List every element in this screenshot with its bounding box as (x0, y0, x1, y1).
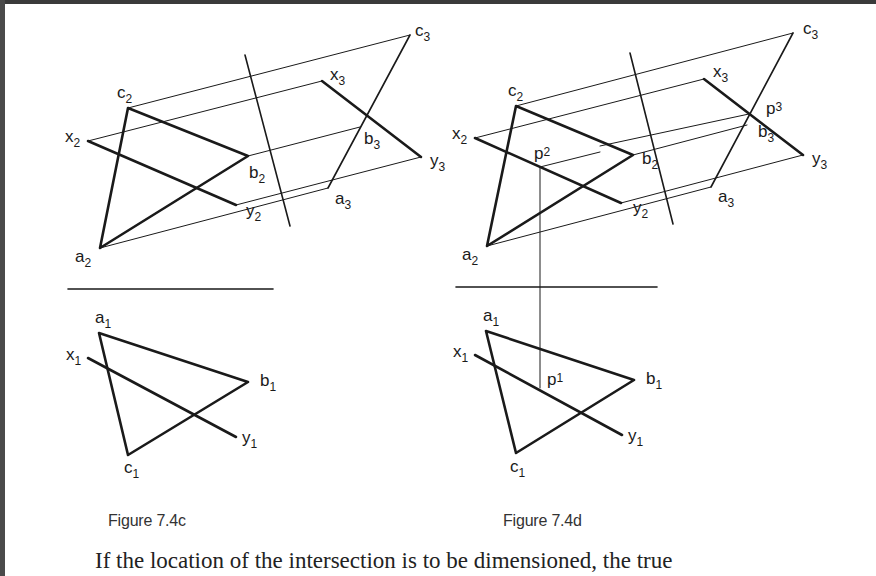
label-p2: p2 (534, 144, 550, 163)
figure-caption-7-4d: Figure 7.4d (503, 512, 582, 530)
label-b1: b1 (646, 369, 662, 392)
label-b2: b2 (642, 149, 658, 172)
label-y3: y3 (812, 149, 828, 172)
label-p3: p3 (766, 99, 782, 118)
body-paragraph: If the location of the intersection is t… (95, 548, 876, 574)
label-b3: b3 (758, 122, 774, 145)
label-y1: y1 (628, 426, 644, 449)
figure-7-4d-drawing: c2 x2 p2 b2 y2 a2 c3 x3 p3 b3 y3 a3 a1 x… (0, 0, 876, 576)
label-a2: a2 (462, 245, 478, 268)
figure-caption-7-4c: Figure 7.4c (108, 512, 186, 530)
label-y2: y2 (633, 198, 649, 221)
line-xy-view-3 (704, 79, 803, 155)
label-x1: x1 (453, 342, 469, 365)
label-p1: p1 (547, 370, 563, 389)
label-c1: c1 (510, 457, 526, 480)
label-x2: x2 (452, 124, 468, 147)
label-c3: c3 (803, 19, 819, 42)
label-x3: x3 (713, 62, 729, 85)
label-a3: a3 (718, 187, 734, 210)
label-a1: a1 (483, 306, 499, 329)
projector-a (487, 187, 711, 246)
label-c2: c2 (508, 81, 524, 104)
line-xy-view-1 (475, 355, 622, 435)
plane-abc-view-1 (486, 331, 634, 453)
projector-c (516, 33, 793, 106)
